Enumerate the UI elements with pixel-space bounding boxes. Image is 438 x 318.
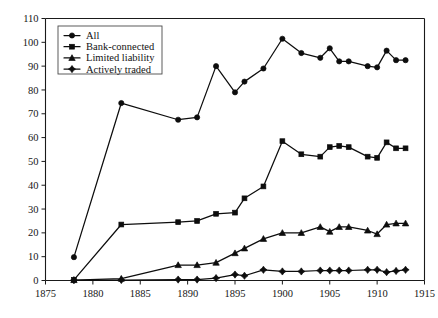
x-tick-label: 1890 xyxy=(177,288,198,299)
data-point xyxy=(364,266,371,273)
data-point xyxy=(318,154,323,159)
data-point xyxy=(336,267,343,274)
data-point xyxy=(327,145,332,150)
data-point xyxy=(195,115,200,120)
data-point xyxy=(213,64,218,69)
data-point xyxy=(280,139,285,144)
y-tick-label: 50 xyxy=(28,156,39,167)
data-point xyxy=(175,276,182,283)
data-point xyxy=(299,152,304,157)
x-axis-ticks: 187518801885189018951900190519101915 xyxy=(35,281,435,299)
x-tick-label: 1880 xyxy=(82,288,103,299)
series-bank-connected xyxy=(72,139,408,282)
data-point xyxy=(299,50,304,55)
y-tick-label: 20 xyxy=(28,227,39,238)
data-point xyxy=(383,269,390,276)
data-point xyxy=(298,268,305,275)
data-point xyxy=(375,155,380,160)
data-point xyxy=(345,267,352,274)
data-point xyxy=(384,48,389,53)
data-point xyxy=(402,266,409,273)
y-tick-label: 70 xyxy=(28,108,39,119)
x-tick-label: 1905 xyxy=(319,288,340,299)
data-point xyxy=(241,272,248,279)
data-point xyxy=(119,100,124,105)
data-point xyxy=(317,224,323,230)
data-point xyxy=(232,90,237,95)
data-point xyxy=(403,146,408,151)
data-point xyxy=(317,267,324,274)
y-tick-label: 100 xyxy=(23,37,39,48)
data-point xyxy=(279,268,286,275)
x-tick-label: 1895 xyxy=(225,288,246,299)
data-point xyxy=(261,184,266,189)
data-point xyxy=(119,222,124,227)
chart-container: 0102030405060708090100110 18751880188518… xyxy=(0,0,438,318)
chart-legend: AllBank-connectedLimited liabilityActive… xyxy=(58,26,162,75)
data-point xyxy=(194,276,201,283)
x-tick-label: 1900 xyxy=(272,288,293,299)
legend-label: All xyxy=(86,30,100,41)
data-point xyxy=(242,196,247,201)
data-point xyxy=(394,146,399,151)
data-point xyxy=(392,267,399,274)
data-point xyxy=(346,59,351,64)
data-point xyxy=(393,58,398,63)
legend-label: Limited liability xyxy=(86,52,155,63)
y-axis-ticks: 0102030405060708090100110 xyxy=(23,13,46,286)
data-point xyxy=(176,117,181,122)
data-point xyxy=(375,65,380,70)
y-tick-label: 110 xyxy=(23,13,38,24)
data-point xyxy=(403,58,408,63)
data-point xyxy=(232,250,238,256)
data-point xyxy=(242,79,247,84)
data-point xyxy=(261,66,266,71)
data-point xyxy=(337,59,342,64)
legend-marker-square-icon xyxy=(70,44,75,49)
data-point xyxy=(374,266,381,273)
data-point xyxy=(346,145,351,150)
data-point xyxy=(365,64,370,69)
x-tick-label: 1910 xyxy=(367,288,388,299)
data-point xyxy=(71,255,76,260)
y-tick-label: 0 xyxy=(33,275,38,286)
data-point xyxy=(384,140,389,145)
legend-marker-circle-icon xyxy=(69,33,74,38)
x-tick-label: 1885 xyxy=(130,288,151,299)
data-point xyxy=(214,211,219,216)
y-tick-label: 30 xyxy=(28,204,39,215)
y-tick-label: 90 xyxy=(28,61,39,72)
x-tick-label: 1875 xyxy=(35,288,56,299)
data-point xyxy=(326,267,333,274)
data-point xyxy=(231,271,238,278)
y-tick-label: 80 xyxy=(28,85,39,96)
data-point xyxy=(337,144,342,149)
data-point xyxy=(280,36,285,41)
data-point xyxy=(233,210,238,215)
data-point xyxy=(327,228,333,234)
legend-label: Actively traded xyxy=(86,64,152,75)
legend-label: Bank-connected xyxy=(86,41,155,52)
data-point xyxy=(241,245,247,251)
x-tick-label: 1915 xyxy=(414,288,435,299)
data-point xyxy=(176,220,181,225)
data-point xyxy=(195,219,200,224)
y-tick-label: 60 xyxy=(28,132,39,143)
series-limited-liability xyxy=(71,220,409,282)
data-point xyxy=(318,55,323,60)
data-point xyxy=(260,266,267,273)
line-chart-plot: 0102030405060708090100110 18751880188518… xyxy=(0,0,438,318)
y-tick-label: 40 xyxy=(28,180,39,191)
data-point xyxy=(327,46,332,51)
data-point xyxy=(365,154,370,159)
y-tick-label: 10 xyxy=(28,251,39,262)
